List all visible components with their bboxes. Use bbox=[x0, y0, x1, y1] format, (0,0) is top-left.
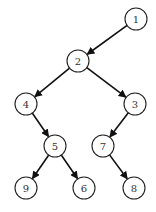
node-label: 2 bbox=[75, 56, 81, 67]
node-label: 8 bbox=[131, 183, 137, 194]
tree-node-8: 8 bbox=[123, 177, 145, 199]
tree-node-5: 5 bbox=[44, 135, 66, 157]
tree-node-2: 2 bbox=[67, 50, 89, 72]
edge-2-to-4 bbox=[35, 68, 70, 97]
edge-1-to-2 bbox=[87, 25, 127, 54]
edge-7-to-8 bbox=[110, 155, 128, 179]
nodes: 124357968 bbox=[15, 8, 147, 199]
edge-4-to-5 bbox=[32, 113, 48, 136]
edge-5-to-9 bbox=[33, 155, 49, 178]
node-label: 6 bbox=[81, 183, 87, 194]
tree-node-7: 7 bbox=[92, 135, 114, 157]
edge-5-to-6 bbox=[61, 155, 77, 178]
node-label: 7 bbox=[100, 141, 106, 152]
node-label: 4 bbox=[23, 99, 29, 110]
binary-tree-diagram: 124357968 bbox=[0, 0, 156, 212]
node-label: 5 bbox=[52, 141, 58, 152]
edge-2-to-3 bbox=[87, 68, 126, 97]
tree-node-6: 6 bbox=[73, 177, 95, 199]
node-label: 9 bbox=[23, 183, 29, 194]
tree-node-9: 9 bbox=[15, 177, 37, 199]
tree-node-4: 4 bbox=[15, 93, 37, 115]
node-label: 3 bbox=[132, 99, 138, 110]
node-label: 1 bbox=[133, 14, 139, 25]
tree-node-3: 3 bbox=[124, 93, 146, 115]
edges bbox=[32, 25, 128, 178]
tree-node-1: 1 bbox=[125, 8, 147, 30]
edge-3-to-7 bbox=[110, 113, 128, 137]
